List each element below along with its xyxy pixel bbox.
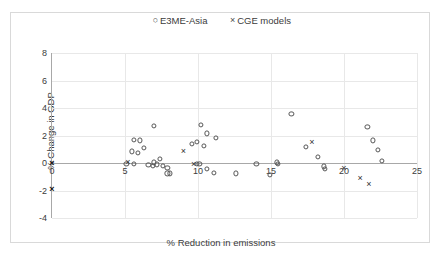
data-point-cross: × <box>364 179 373 188</box>
data-point-circle <box>130 149 135 154</box>
data-point-circle <box>322 166 327 171</box>
data-point-cross: × <box>48 159 57 168</box>
y-tick-label: 4 <box>42 103 47 113</box>
gridline-horizontal <box>52 108 417 109</box>
y-tick-label: -2 <box>39 186 47 196</box>
gridline-horizontal <box>52 81 417 82</box>
legend-label-cge-models: CGE models <box>237 15 291 26</box>
data-point-circle <box>136 150 141 155</box>
data-point-circle <box>155 162 160 167</box>
x-axis-title: % Reduction in emissions <box>0 237 442 248</box>
data-point-circle <box>365 125 370 130</box>
y-tick-label: 8 <box>42 48 47 58</box>
data-point-cross: × <box>340 163 349 172</box>
data-point-circle <box>137 138 142 143</box>
gridline-vertical <box>417 53 418 218</box>
legend-label-e3me-asia: E3ME-Asia <box>160 15 208 26</box>
gridline-horizontal <box>52 218 417 219</box>
x-tick-label: 5 <box>122 166 127 176</box>
data-point-circle <box>168 171 173 176</box>
data-point-cross: × <box>179 147 188 156</box>
data-point-circle <box>211 170 216 175</box>
data-point-circle <box>276 161 281 166</box>
data-point-cross: × <box>123 157 132 166</box>
legend-item-e3me-asia: ○E3ME-Asia <box>151 14 208 26</box>
data-point-circle <box>371 138 376 143</box>
data-point-circle <box>204 167 209 172</box>
chart-legend: ○E3ME-Asia ×CGE models <box>0 14 442 26</box>
data-point-circle <box>233 171 238 176</box>
y-tick-label: 2 <box>42 131 47 141</box>
gridline-horizontal <box>52 53 417 54</box>
data-point-circle <box>289 111 294 116</box>
circle-marker-icon: ○ <box>151 15 160 25</box>
data-point-cross: × <box>48 185 57 194</box>
gridline-horizontal <box>52 191 417 192</box>
data-point-circle <box>213 135 218 140</box>
data-point-circle <box>152 123 157 128</box>
y-tick-label: -4 <box>39 213 47 223</box>
data-point-circle <box>201 143 206 148</box>
gridline-horizontal <box>52 136 417 137</box>
data-point-cross: × <box>189 159 198 168</box>
data-point-circle <box>190 141 195 146</box>
data-point-circle <box>165 165 170 170</box>
cross-marker-icon: × <box>228 15 237 25</box>
legend-item-cge-models: ×CGE models <box>228 14 291 26</box>
data-point-circle <box>141 145 146 150</box>
data-point-circle <box>254 161 259 166</box>
x-tick-label: 0 <box>49 166 54 176</box>
y-tick-label: 6 <box>42 76 47 86</box>
data-point-circle <box>375 147 380 152</box>
y-tick-label: 0 <box>42 158 47 168</box>
data-point-cross: × <box>307 138 316 147</box>
data-point-circle <box>157 156 162 161</box>
data-point-cross: × <box>356 174 365 183</box>
data-point-circle <box>198 123 203 128</box>
data-point-circle <box>131 137 136 142</box>
x-axis-line <box>52 163 417 164</box>
data-point-circle <box>315 154 320 159</box>
x-tick-label: 25 <box>412 166 422 176</box>
scatter-plot-area: -4-202468 0510152025 ××××××××× <box>52 53 417 218</box>
